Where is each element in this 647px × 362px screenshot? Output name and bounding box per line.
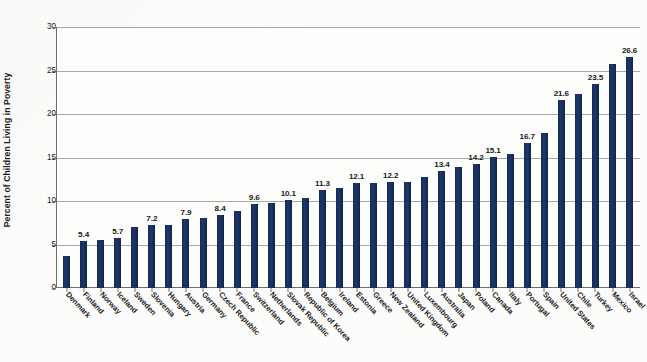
bar[interactable]: 21.6 [558, 100, 565, 288]
bar[interactable]: 14.2 [473, 164, 480, 288]
bar[interactable] [165, 225, 172, 289]
x-label-cell: Slovak Republic [280, 292, 297, 362]
bar-cell: 9.6 [246, 27, 263, 288]
x-label-cell: Republic of Korea [297, 292, 314, 362]
bar-cell: 23.5 [587, 27, 604, 288]
bar[interactable] [336, 188, 343, 288]
bar[interactable]: 12.1 [353, 183, 360, 288]
bar-cell [365, 27, 382, 288]
bar[interactable]: 11.3 [319, 190, 326, 288]
bar[interactable] [507, 154, 514, 288]
bar[interactable]: 5.4 [80, 241, 87, 288]
bar-cell [160, 27, 177, 288]
bar-cell [416, 27, 433, 288]
bar-cell: 12.1 [348, 27, 365, 288]
bar[interactable] [268, 203, 275, 288]
bar[interactable] [131, 227, 138, 288]
x-label-cell: Poland [468, 292, 485, 362]
bar[interactable] [404, 182, 411, 288]
y-tick-mark [52, 288, 56, 289]
bar-cell: 11.3 [314, 27, 331, 288]
x-label-cell: Finland [75, 292, 92, 362]
bar[interactable] [575, 94, 582, 288]
bar-value-label: 10.1 [281, 189, 296, 198]
bar[interactable] [455, 167, 462, 288]
plot-area: 5.45.77.27.98.49.610.111.312.112.213.414… [56, 27, 640, 288]
bar-value-label: 21.6 [554, 89, 569, 98]
x-label-cell: France [229, 292, 246, 362]
bar-cell: 14.2 [468, 27, 485, 288]
x-label-cell: Belgium [314, 292, 331, 362]
bar[interactable] [421, 177, 428, 288]
x-label-cell: Czech Republic [212, 292, 229, 362]
y-axis-title: Percent of Children Living in Poverty [2, 50, 16, 250]
bar[interactable] [200, 218, 207, 288]
bar[interactable]: 7.9 [182, 219, 189, 288]
bar-cell [570, 27, 587, 288]
bar-cell [331, 27, 348, 288]
bar-cell [263, 27, 280, 288]
bar-cell [92, 27, 109, 288]
x-label-cell: Denmark [58, 292, 75, 362]
bar[interactable] [97, 240, 104, 288]
bar[interactable] [234, 211, 241, 288]
x-label-cell: Turkey [587, 292, 604, 362]
x-label-cell: Norway [92, 292, 109, 362]
x-label-cell: Portugal [519, 292, 536, 362]
x-label-cell: Japan [450, 292, 467, 362]
bar-value-label: 7.2 [146, 214, 157, 223]
bar[interactable] [541, 133, 548, 288]
x-label-cell: Israel [621, 292, 638, 362]
x-label-cell: Ireland [331, 292, 348, 362]
bar-cell: 21.6 [553, 27, 570, 288]
bar-value-label: 5.4 [78, 230, 89, 239]
bar-chart: Percent of Children Living in Poverty 05… [0, 0, 647, 362]
bar[interactable]: 5.7 [114, 238, 121, 288]
bar[interactable]: 26.6 [626, 57, 633, 288]
bar[interactable]: 8.4 [217, 215, 224, 288]
x-label-cell: Iceland [109, 292, 126, 362]
x-label-cell: New Zealand [382, 292, 399, 362]
bar-cell: 7.9 [177, 27, 194, 288]
x-label-cell: Netherlands [263, 292, 280, 362]
bar-value-label: 5.7 [112, 227, 123, 236]
bar-cell: 12.2 [382, 27, 399, 288]
x-label-cell: Germany [195, 292, 212, 362]
bar-cell: 5.4 [75, 27, 92, 288]
bar[interactable] [370, 183, 377, 288]
x-label-cell: Switzerland [246, 292, 263, 362]
bar-cell [502, 27, 519, 288]
bar[interactable]: 15.1 [490, 157, 497, 288]
bar[interactable]: 7.2 [148, 225, 155, 288]
bar-cell [297, 27, 314, 288]
x-label-cell: Mexico [604, 292, 621, 362]
bar-cell [126, 27, 143, 288]
x-label-cell: Greece [365, 292, 382, 362]
bar-value-label: 7.9 [180, 208, 191, 217]
bar[interactable]: 16.7 [524, 143, 531, 288]
bar[interactable]: 12.2 [387, 182, 394, 288]
bar[interactable]: 10.1 [285, 200, 292, 288]
bar-cell [229, 27, 246, 288]
bar-cell: 13.4 [433, 27, 450, 288]
x-label-cell: Hungary [160, 292, 177, 362]
bar-cell: 10.1 [280, 27, 297, 288]
x-label-cell: United States [553, 292, 570, 362]
bar[interactable] [302, 198, 309, 288]
bar-value-label: 9.6 [249, 193, 260, 202]
bar[interactable]: 13.4 [438, 171, 445, 288]
bar-cell: 26.6 [621, 27, 638, 288]
bar[interactable] [609, 64, 616, 288]
bar[interactable]: 23.5 [592, 84, 599, 288]
bar[interactable]: 9.6 [251, 204, 258, 288]
bar-cell [604, 27, 621, 288]
x-label-cell: Spain [536, 292, 553, 362]
x-label-cell: Luxembourg [416, 292, 433, 362]
bar[interactable] [63, 256, 70, 288]
x-axis-labels: DenmarkFinlandNorwayIcelandSwedenSloveni… [56, 292, 640, 362]
y-axis-ticks: 051015202530 [30, 27, 56, 288]
x-label-cell: Canada [485, 292, 502, 362]
bar-cell [399, 27, 416, 288]
bar-cell [58, 27, 75, 288]
bar-cell: 8.4 [212, 27, 229, 288]
